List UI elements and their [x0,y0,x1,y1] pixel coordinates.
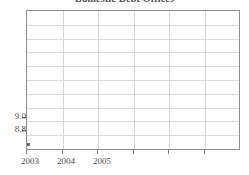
x-axis-tick [62,150,63,154]
gridline-vertical [205,11,206,149]
gridline-vertical [169,11,170,149]
x-axis-tick [97,150,98,154]
plot-area [26,10,240,150]
x-axis-tick [26,150,27,154]
y-axis-label: 8.8 [15,125,26,134]
y-axis-label: 9.0 [15,112,26,121]
x-axis-tick [204,150,205,154]
data-point-marker [27,143,30,146]
gridline-vertical [63,11,64,149]
x-axis-label: 2004 [57,156,75,166]
x-axis-label: 2003 [21,156,39,166]
x-axis-label: 2005 [93,156,111,166]
gridline-vertical [134,11,135,149]
chart-container: Domestic Debt Offices 9.0 8.8 2003 2004 … [0,0,249,175]
chart-title: Domestic Debt Offices [0,0,249,4]
x-axis-tick [133,150,134,154]
gridline-vertical [98,11,99,149]
x-axis-tick [168,150,169,154]
